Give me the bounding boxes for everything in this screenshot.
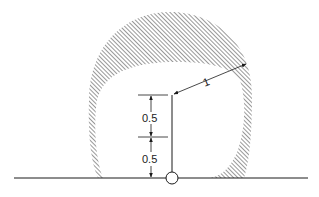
radius-arrow <box>174 64 246 94</box>
pivot-circle <box>166 172 178 184</box>
hatched-region <box>89 12 252 178</box>
label-radius: 1 <box>201 75 211 88</box>
label-lower-segment: 0.5 <box>142 153 157 165</box>
label-upper-segment: 0.5 <box>142 112 157 124</box>
diagram-canvas: 0.5 0.5 1 <box>0 0 319 197</box>
